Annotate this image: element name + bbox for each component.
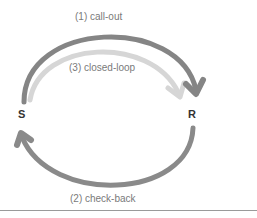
receiver-node: R <box>188 108 196 120</box>
communication-loop-diagram: (1) call-out (3) closed-loop (2) check-b… <box>0 0 257 218</box>
arrows-svg <box>0 0 257 218</box>
bottom-divider <box>0 210 257 211</box>
call-out-label: (1) call-out <box>75 11 122 22</box>
closed-loop-label: (3) closed-loop <box>69 62 135 73</box>
check-back-arrow <box>17 128 193 185</box>
sender-node: S <box>18 108 25 120</box>
check-back-label: (2) check-back <box>70 193 136 204</box>
closed-loop-arrow <box>30 52 184 100</box>
